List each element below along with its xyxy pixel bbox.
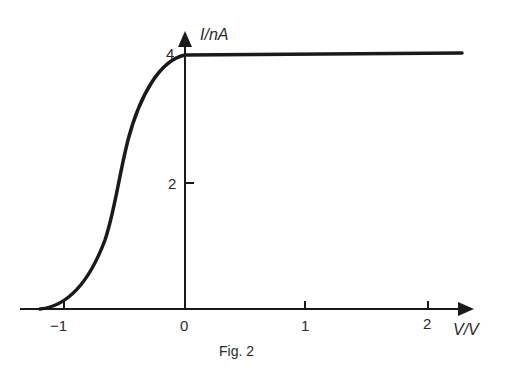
y-tick-label-4: 4 — [166, 46, 174, 61]
x-tick-label-1: 1 — [301, 318, 309, 333]
iv-curve — [40, 53, 462, 309]
x-tick-label-2: 2 — [423, 316, 431, 331]
x-axis-arrow-icon — [458, 302, 474, 316]
figure-caption: Fig. 2 — [219, 343, 254, 359]
x-tick-label--1: −1 — [50, 318, 67, 333]
y-axis-label: I/nA — [200, 27, 228, 43]
y-axis-arrow-icon — [178, 31, 192, 47]
y-tick-label-2: 2 — [168, 176, 176, 191]
x-tick-label-0: 0 — [180, 318, 188, 333]
x-axis-label: V/V — [453, 322, 479, 338]
